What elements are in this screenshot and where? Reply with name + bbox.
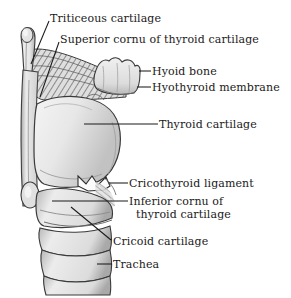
- label-cricothyroid-ligament: Cricothyroid ligament: [129, 178, 254, 190]
- trachea-rings: [39, 226, 112, 295]
- larynx-anatomy-figure: Triticeous cartilage Superior cornu of t…: [0, 0, 291, 298]
- label-triticeous-cartilage: Triticeous cartilage: [50, 13, 161, 25]
- label-inferior-cornu-line2: thyroid cartilage: [136, 209, 231, 221]
- label-superior-cornu: Superior cornu of thyroid cartilage: [60, 34, 259, 46]
- label-hyoid-bone: Hyoid bone: [152, 66, 217, 78]
- hyoid-bone-body: [94, 58, 140, 95]
- triticeous-cartilage-nodule: [21, 28, 33, 43]
- label-trachea: Trachea: [113, 259, 159, 271]
- label-cricoid-cartilage: Cricoid cartilage: [113, 236, 208, 248]
- label-hyothyroid-membrane: Hyothyroid membrane: [152, 82, 280, 94]
- label-inferior-cornu-line1: Inferior cornu of: [129, 196, 223, 208]
- label-thyroid-cartilage: Thyroid cartilage: [159, 119, 257, 131]
- thyroid-cartilage-lamina: [34, 94, 120, 187]
